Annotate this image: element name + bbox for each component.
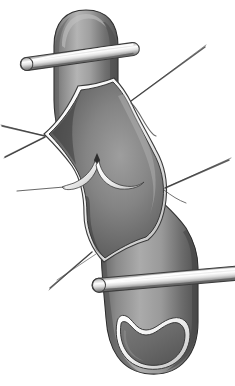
vessel-arteriotomy-illustration: Open arteriotomy of vessel with retracti… bbox=[0, 0, 235, 386]
surgical-illustration-figure: Open arteriotomy of vessel with retracti… bbox=[0, 0, 235, 386]
